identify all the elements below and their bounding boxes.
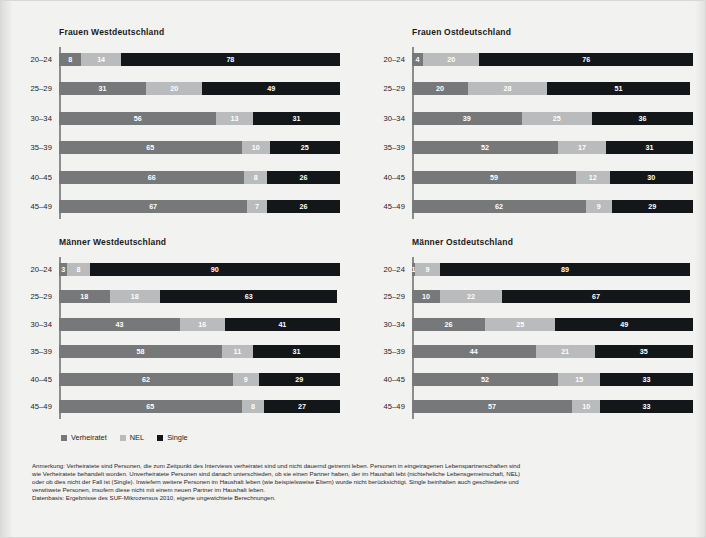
bar-row: 25–29181863: [17, 290, 340, 303]
bar-segment-nel: 21: [536, 345, 595, 358]
legend-label: Single: [167, 433, 188, 442]
legend-swatch-icon: [61, 435, 67, 441]
stacked-bar: 66826: [59, 171, 340, 184]
bar-segment-verheiratet: 8: [59, 53, 81, 66]
bar-segment-nel: 15: [558, 373, 600, 386]
bar-row-label: 25–29: [17, 292, 59, 301]
chart-legend: VerheiratetNELSingle: [61, 433, 188, 442]
stacked-bar: 3890: [59, 263, 340, 276]
bar-segment-nel: 25: [522, 112, 592, 125]
legend-label: Verheiratet: [71, 433, 107, 442]
bar-segment-single: 25: [270, 141, 340, 154]
bar-row: 40–4562929: [17, 373, 340, 386]
bar-segment-single: 33: [600, 400, 693, 413]
bar-segment-nel: 12: [576, 171, 609, 184]
stacked-bar: 561331: [59, 112, 340, 125]
bar-segment-verheiratet: 62: [59, 373, 233, 386]
stacked-bar: 651025: [59, 141, 340, 154]
bar-segment-single: 29: [612, 200, 693, 213]
bar-segment-single: 30: [610, 171, 693, 184]
bar-row-label: 45–49: [17, 402, 59, 411]
bar-row: 35–39521731: [370, 141, 693, 154]
stacked-bar: 431641: [59, 318, 340, 331]
bar-segment-single: 49: [202, 82, 340, 95]
bar-row: 20–2442076: [370, 53, 693, 66]
bar-row: 30–34262549: [370, 318, 693, 331]
stacked-bar: 42076: [412, 53, 693, 66]
bar-segment-verheiratet: 66: [59, 171, 244, 184]
chart-title: Frauen Westdeutschland: [59, 27, 164, 37]
bar-row: 30–34431641: [17, 318, 340, 331]
bar-segment-nel: 8: [244, 171, 266, 184]
bar-segment-single: 89: [440, 263, 690, 276]
stacked-bar: 202851: [412, 82, 693, 95]
bar-segment-verheiratet: 62: [412, 200, 586, 213]
bar-segment-nel: 10: [572, 400, 600, 413]
bar-segment-single: 49: [555, 318, 693, 331]
bar-rows: 20–24389025–2918186330–3443164135–395811…: [17, 263, 340, 413]
bar-segment-nel: 9: [586, 200, 611, 213]
bar-segment-nel: 14: [81, 53, 120, 66]
bar-row: 45–4967726: [17, 200, 340, 213]
bar-segment-nel: 9: [415, 263, 440, 276]
bar-row: 20–241989: [370, 263, 693, 276]
bar-row: 45–49571033: [370, 400, 693, 413]
stacked-bar: 571033: [412, 400, 693, 413]
stacked-bar: 521731: [412, 141, 693, 154]
bar-segment-single: 78: [121, 53, 340, 66]
note-line-4: verwitwete Personen, insofern diese nich…: [32, 486, 680, 494]
note-line-2: wie Verheiratete behandelt worden. Unver…: [32, 470, 680, 478]
bar-segment-single: 76: [479, 53, 693, 66]
bar-segment-single: 27: [264, 400, 340, 413]
bar-row: 35–39581131: [17, 345, 340, 358]
bar-row-label: 25–29: [370, 84, 412, 93]
legend-label: NEL: [130, 433, 144, 442]
bar-row: 35–39651025: [17, 141, 340, 154]
bar-segment-single: 26: [267, 200, 340, 213]
bar-segment-single: 31: [606, 141, 693, 154]
stacked-bar: 521533: [412, 373, 693, 386]
chart-panel-frauen-ost: Frauen Ostdeutschland 20–244207625–29202…: [354, 19, 706, 229]
stacked-bar: 62929: [412, 200, 693, 213]
bar-row-label: 45–49: [17, 202, 59, 211]
bar-segment-single: 26: [267, 171, 340, 184]
figure-page: Frauen Westdeutschland 20–248147825–2931…: [0, 0, 706, 538]
bar-segment-single: 90: [90, 263, 340, 276]
bar-segment-single: 36: [592, 112, 693, 125]
bar-segment-nel: 17: [558, 141, 606, 154]
bar-row: 40–45591230: [370, 171, 693, 184]
bar-segment-verheiratet: 10: [412, 290, 440, 303]
plot-area: 20–248147825–2931204930–3456133135–39651…: [17, 47, 340, 219]
bar-row-label: 45–49: [370, 202, 412, 211]
stacked-bar: 581131: [59, 345, 340, 358]
chart-title: Frauen Ostdeutschland: [412, 27, 511, 37]
bar-row-label: 20–24: [370, 55, 412, 64]
stacked-bar: 312049: [59, 82, 340, 95]
chart-title: Männer Westdeutschland: [59, 237, 166, 247]
bar-row-label: 20–24: [17, 265, 59, 274]
bar-row-label: 40–45: [17, 173, 59, 182]
bar-segment-verheiratet: 20: [412, 82, 468, 95]
bar-row: 20–2481478: [17, 53, 340, 66]
bar-rows: 20–24198925–2910226730–3426254935–394421…: [370, 263, 693, 413]
bar-segment-single: 63: [160, 290, 337, 303]
bar-row-label: 25–29: [17, 84, 59, 93]
stacked-bar: 181863: [59, 290, 340, 303]
bar-row: 30–34561331: [17, 112, 340, 125]
bar-segment-verheiratet: 43: [59, 318, 180, 331]
note-line-3: oder ob dies nicht der Fall ist (Single)…: [32, 478, 680, 486]
bar-row-label: 25–29: [370, 292, 412, 301]
legend-swatch-icon: [120, 435, 126, 441]
bar-segment-verheiratet: 52: [412, 373, 558, 386]
stacked-bar: 81478: [59, 53, 340, 66]
bar-row-label: 40–45: [370, 375, 412, 384]
bar-segment-verheiratet: 31: [59, 82, 146, 95]
bar-row: 25–29312049: [17, 82, 340, 95]
bar-segment-single: 29: [259, 373, 340, 386]
bar-row-label: 30–34: [370, 114, 412, 123]
bar-segment-verheiratet: 26: [412, 318, 485, 331]
plot-area: 20–244207625–2920285130–3439253635–39521…: [370, 47, 693, 219]
bar-segment-nel: 7: [247, 200, 267, 213]
bar-row: 45–4965827: [17, 400, 340, 413]
bar-row: 40–4566826: [17, 171, 340, 184]
